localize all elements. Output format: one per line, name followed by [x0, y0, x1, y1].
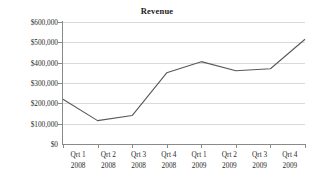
x-tick-label: Qrt 3 2009 [245, 150, 275, 180]
x-tick-label: Qrt 2 2008 [93, 150, 123, 180]
x-tick-label: Qrt 2 2009 [214, 150, 244, 180]
x-axis-labels: Qrt 1 2008 Qrt 2 2008 Qrt 3 2008 Qrt 4 2… [63, 150, 305, 180]
x-tick-year: 2009 [214, 161, 244, 172]
revenue-series-line [63, 39, 305, 120]
x-tick-quarter: Qrt 3 [124, 150, 154, 161]
x-tick-year: 2008 [154, 161, 184, 172]
x-tick-label: Qrt 4 2009 [275, 150, 305, 180]
x-tick-quarter: Qrt 3 [245, 150, 275, 161]
x-tick-year: 2008 [93, 161, 123, 172]
x-tick-year: 2008 [63, 161, 93, 172]
x-tick-quarter: Qrt 4 [154, 150, 184, 161]
revenue-line-chart: Revenue $600,000 $500,000 $400,000 $300,… [0, 0, 314, 181]
x-tick-quarter: Qrt 2 [214, 150, 244, 161]
x-tick-year: 2009 [245, 161, 275, 172]
x-tick-quarter: Qrt 4 [275, 150, 305, 161]
x-tick-quarter: Qrt 1 [184, 150, 214, 161]
x-tick-year: 2009 [184, 161, 214, 172]
x-tick-label: Qrt 1 2008 [63, 150, 93, 180]
x-tick-label: Qrt 1 2009 [184, 150, 214, 180]
x-tick-quarter: Qrt 1 [63, 150, 93, 161]
x-tick-quarter: Qrt 2 [93, 150, 123, 161]
x-tick-year: 2008 [124, 161, 154, 172]
x-tick-label: Qrt 4 2008 [154, 150, 184, 180]
x-tick-label: Qrt 3 2008 [124, 150, 154, 180]
x-tick-year: 2009 [275, 161, 305, 172]
